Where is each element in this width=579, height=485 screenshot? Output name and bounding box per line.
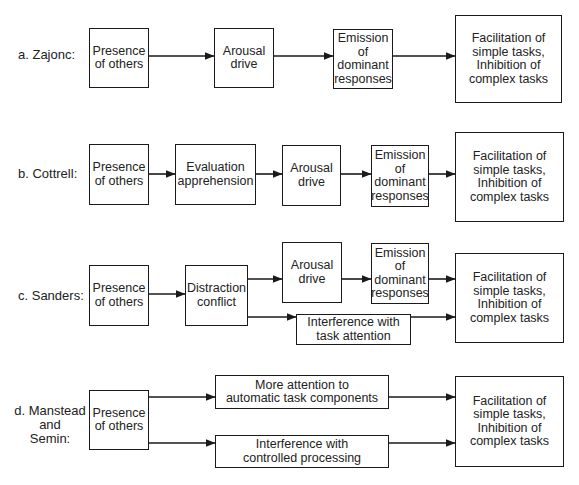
zajonc-arousal-drive-box: Arousal drive xyxy=(214,28,274,88)
box-text: Evaluation apprehension xyxy=(178,161,254,188)
box-text: Distraction conflict xyxy=(187,282,246,309)
sanders-interference-task-attention-box: Interference with task attention xyxy=(296,314,411,345)
manstead-interference-controlled-box: Interference with controlled processing xyxy=(215,435,389,468)
box-text: Arousal drive xyxy=(291,259,333,286)
row-c-label: c. Sanders: xyxy=(18,289,86,303)
box-text: Presence of others xyxy=(93,282,146,309)
box-text: Interference with task attention xyxy=(307,316,399,343)
box-text: Arousal drive xyxy=(290,162,332,189)
zajonc-emission-dominant-responses-box: Emission of dominant responses xyxy=(333,29,393,89)
zajonc-outcome-box: Facilitation of simple tasks, Inhibition… xyxy=(455,15,562,103)
zajonc-presence-of-others-box: Presence of others xyxy=(89,28,149,88)
box-text: Facilitation of simple tasks, Inhibition… xyxy=(470,271,549,325)
sanders-arousal-drive-box: Arousal drive xyxy=(282,242,342,303)
sanders-presence-of-others-box: Presence of others xyxy=(89,265,149,326)
cottrell-arousal-drive-box: Arousal drive xyxy=(282,145,341,206)
cottrell-emission-dominant-responses-box: Emission of dominant responses xyxy=(371,145,429,207)
box-text: Facilitation of simple tasks, Inhibition… xyxy=(469,32,548,86)
cottrell-outcome-box: Facilitation of simple tasks, Inhibition… xyxy=(455,132,564,222)
cottrell-presence-of-others-box: Presence of others xyxy=(89,144,149,205)
row-b-label: b. Cottrell: xyxy=(18,167,86,181)
box-text: Presence of others xyxy=(93,407,146,434)
sanders-outcome-box: Facilitation of simple tasks, Inhibition… xyxy=(455,253,564,343)
box-text: Facilitation of simple tasks, Inhibition… xyxy=(470,150,549,204)
box-text: Emission of dominant responses xyxy=(371,247,429,301)
box-text: Arousal drive xyxy=(223,45,265,72)
cottrell-evaluation-apprehension-box: Evaluation apprehension xyxy=(175,144,256,205)
row-d-label-text: d. Manstead and Semin: xyxy=(14,403,86,446)
box-text: Interference with controlled processing xyxy=(243,438,361,465)
row-a-label: a. Zajonc: xyxy=(18,48,86,62)
row-d-label: d. Manstead and Semin: xyxy=(14,404,86,446)
sanders-distraction-conflict-box: Distraction conflict xyxy=(185,265,248,326)
box-text: Presence of others xyxy=(93,161,146,188)
box-text: Emission of dominant responses xyxy=(371,149,429,203)
box-text: More attention to automatic task compone… xyxy=(226,379,378,406)
manstead-more-attention-automatic-box: More attention to automatic task compone… xyxy=(215,375,389,409)
manstead-outcome-box: Facilitation of simple tasks, Inhibition… xyxy=(455,376,564,467)
manstead-presence-of-others-box: Presence of others xyxy=(89,390,149,450)
sanders-emission-dominant-responses-box: Emission of dominant responses xyxy=(371,243,429,304)
box-text: Facilitation of simple tasks, Inhibition… xyxy=(470,395,549,449)
social-facilitation-diagram: a. Zajonc: Presence of others Arousal dr… xyxy=(0,0,579,485)
box-text: Presence of others xyxy=(93,45,146,72)
box-text: Emission of dominant responses xyxy=(334,32,392,86)
